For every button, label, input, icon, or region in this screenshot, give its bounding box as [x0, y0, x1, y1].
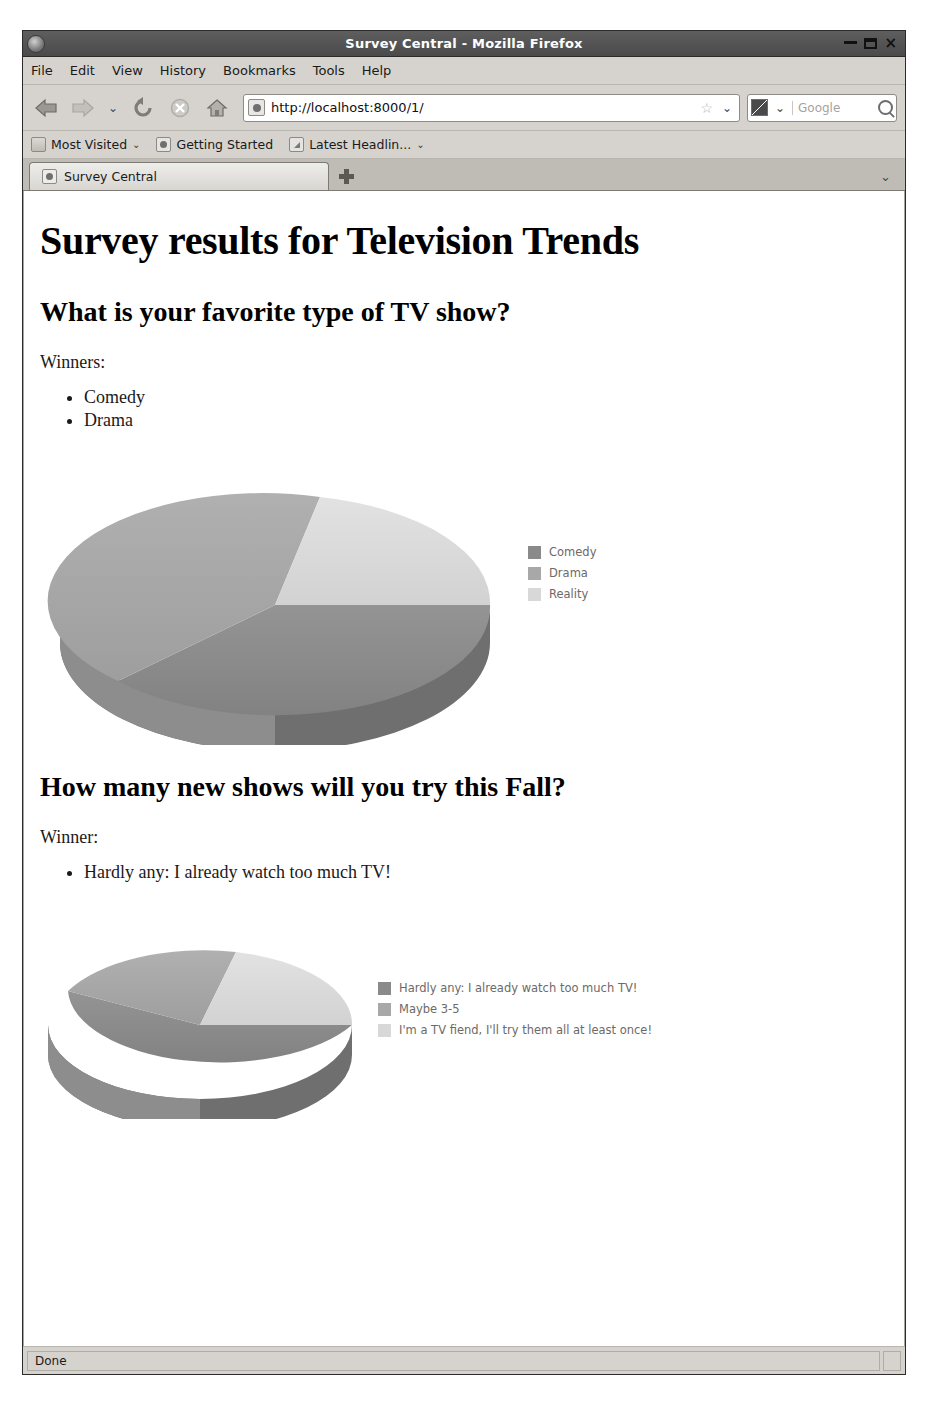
url-input[interactable]: http://localhost:8000/1/	[271, 100, 694, 115]
page-title: Survey results for Television Trends	[40, 217, 888, 264]
forward-arrow-icon	[71, 97, 95, 119]
firefox-icon	[156, 137, 171, 152]
screenshot-root: Survey Central - Mozilla Firefox × File …	[0, 0, 928, 1402]
search-icon[interactable]	[878, 100, 893, 115]
status-bar: Done	[23, 1346, 905, 1374]
pie-chart-2-graphic	[40, 929, 360, 1119]
maximize-icon[interactable]	[864, 38, 877, 49]
plus-icon	[339, 169, 354, 184]
home-icon	[206, 97, 228, 119]
bookmark-label: Getting Started	[176, 137, 273, 152]
legend-label: Reality	[549, 587, 588, 601]
bookmark-label: Most Visited	[51, 137, 127, 152]
menu-item-help[interactable]: Help	[362, 63, 392, 78]
back-button[interactable]	[31, 93, 61, 123]
tab-survey-central[interactable]: Survey Central	[29, 162, 329, 190]
status-message: Done	[27, 1351, 880, 1371]
url-dropdown-icon[interactable]: ⌄	[719, 101, 735, 115]
legend-label: Hardly any: I already watch too much TV!	[399, 981, 637, 995]
question-heading-2: How many new shows will you try this Fal…	[40, 771, 888, 803]
winners-label-1: Winners:	[40, 352, 888, 373]
menu-item-tools[interactable]: Tools	[313, 63, 345, 78]
pie-chart-2-legend: Hardly any: I already watch too much TV!…	[378, 981, 652, 1037]
page-favicon-icon	[248, 99, 265, 116]
title-bar: Survey Central - Mozilla Firefox ×	[23, 31, 905, 57]
legend-item: I'm a TV fiend, I'll try them all at lea…	[378, 1023, 652, 1037]
menu-item-bookmarks[interactable]: Bookmarks	[223, 63, 296, 78]
legend-item: Maybe 3-5	[378, 1002, 652, 1016]
url-bar[interactable]: http://localhost:8000/1/ ☆ ⌄	[243, 94, 740, 122]
list-item: Hardly any: I already watch too much TV!	[84, 862, 888, 883]
menu-item-file[interactable]: File	[31, 63, 53, 78]
list-item: Drama	[84, 410, 888, 431]
new-tab-button[interactable]	[329, 162, 363, 190]
question-heading-1: What is your favorite type of TV show?	[40, 296, 888, 328]
chevron-down-icon: ⌄	[132, 139, 140, 150]
menu-bar: File Edit View History Bookmarks Tools H…	[23, 57, 905, 85]
tab-strip: Survey Central ⌄	[23, 159, 905, 191]
search-input[interactable]: Google	[792, 101, 874, 115]
history-dropdown-icon[interactable]: ⌄	[105, 101, 121, 115]
bookmark-most-visited[interactable]: Most Visited ⌄	[31, 137, 140, 152]
legend-swatch-hardly-any	[378, 982, 391, 995]
navigation-toolbar: ⌄ http://loca	[23, 85, 905, 131]
reload-button[interactable]	[128, 93, 158, 123]
legend-item: Comedy	[528, 545, 596, 559]
winners-label-2: Winner:	[40, 827, 888, 848]
pie-chart-2: Hardly any: I already watch too much TV!…	[40, 929, 888, 1119]
browser-window: Survey Central - Mozilla Firefox × File …	[22, 30, 906, 1375]
bookmark-latest-headlines[interactable]: Latest Headlin... ⌄	[289, 137, 424, 152]
folder-icon	[31, 137, 46, 152]
legend-swatch-maybe-3-5	[378, 1003, 391, 1016]
bookmark-star-icon[interactable]: ☆	[700, 100, 713, 116]
legend-label: Maybe 3-5	[399, 1002, 460, 1016]
menu-item-history[interactable]: History	[160, 63, 206, 78]
app-icon	[27, 35, 45, 53]
legend-item: Hardly any: I already watch too much TV!	[378, 981, 652, 995]
search-dropdown-icon[interactable]: ⌄	[772, 101, 788, 115]
window-title: Survey Central - Mozilla Firefox	[23, 36, 905, 51]
tab-favicon-icon	[42, 169, 57, 184]
home-button[interactable]	[202, 93, 232, 123]
legend-swatch-drama	[528, 567, 541, 580]
bookmark-label: Latest Headlin...	[309, 137, 411, 152]
page-viewport: Survey results for Television Trends Wha…	[23, 191, 905, 1346]
winners-list-2: Hardly any: I already watch too much TV!	[40, 862, 888, 883]
legend-label: I'm a TV fiend, I'll try them all at lea…	[399, 1023, 652, 1037]
back-arrow-icon	[34, 97, 58, 119]
forward-button[interactable]	[68, 93, 98, 123]
minimize-icon[interactable]	[844, 41, 857, 44]
legend-label: Drama	[549, 566, 588, 580]
bookmarks-bar: Most Visited ⌄ Getting Started Latest He…	[23, 131, 905, 159]
legend-label: Comedy	[549, 545, 596, 559]
pie-chart-1-graphic	[40, 455, 510, 745]
legend-item: Reality	[528, 587, 596, 601]
menu-item-edit[interactable]: Edit	[70, 63, 95, 78]
list-item: Comedy	[84, 387, 888, 408]
legend-swatch-reality	[528, 588, 541, 601]
stop-button[interactable]	[165, 93, 195, 123]
bookmark-getting-started[interactable]: Getting Started	[156, 137, 273, 152]
window-controls: ×	[844, 36, 903, 51]
legend-swatch-tv-fiend	[378, 1024, 391, 1037]
legend-item: Drama	[528, 566, 596, 580]
tab-label: Survey Central	[64, 169, 157, 184]
menu-item-view[interactable]: View	[112, 63, 143, 78]
search-engine-icon[interactable]	[751, 99, 768, 116]
reload-icon	[132, 97, 154, 119]
tab-list-chevron-icon[interactable]: ⌄	[880, 169, 891, 184]
legend-swatch-comedy	[528, 546, 541, 559]
chevron-down-icon: ⌄	[416, 139, 424, 150]
rss-icon	[289, 137, 304, 152]
pie-chart-1: Comedy Drama Reality	[40, 455, 888, 745]
close-icon[interactable]: ×	[884, 36, 897, 51]
resize-grip[interactable]	[883, 1351, 901, 1371]
stop-icon	[169, 97, 191, 119]
search-bar[interactable]: ⌄ Google	[747, 94, 897, 122]
pie-chart-1-legend: Comedy Drama Reality	[528, 545, 596, 601]
winners-list-1: Comedy Drama	[40, 387, 888, 431]
